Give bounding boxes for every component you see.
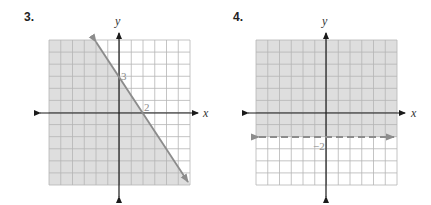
- y-axis-label: y: [321, 14, 328, 28]
- graph-3: x y 3 2: [40, 14, 209, 197]
- x-axis-label: x: [410, 106, 417, 120]
- y-intercept-label: 3: [121, 70, 127, 82]
- y-axis-label: y: [114, 14, 121, 28]
- y-intercept-label: −2: [313, 140, 325, 152]
- x-intercept-label: 2: [144, 101, 150, 113]
- x-axis-label: x: [202, 106, 209, 120]
- graph-4: x y −2: [248, 14, 417, 197]
- graphs-canvas: x y 3 2 x y −2: [0, 0, 431, 205]
